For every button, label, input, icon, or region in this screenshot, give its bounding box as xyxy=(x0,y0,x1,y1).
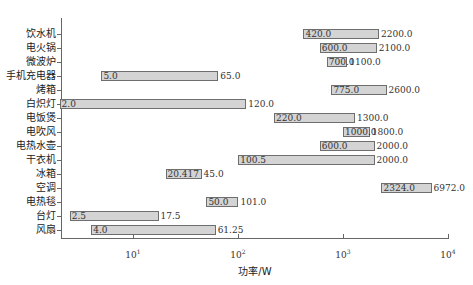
bar-min-label: 420.0 xyxy=(305,29,331,39)
bar-min-label: 600.0 xyxy=(322,43,348,53)
x-axis-line xyxy=(61,238,449,239)
bar-max-label: 17.5 xyxy=(161,211,181,221)
bar-min-label: 220.0 xyxy=(276,113,302,123)
x-tick-mark xyxy=(238,234,239,238)
x-tick-mark xyxy=(448,234,449,238)
y-axis-labels: 饮水机电火锅微波炉手机充电器烤箱白炽灯电饭煲电吹风电热水壶干衣机冰箱空调电热毯台… xyxy=(0,0,56,285)
bar-max-label: 61.25 xyxy=(218,225,244,235)
y-tick-label: 电热水壶 xyxy=(16,140,56,152)
bar-max-label: 1100.0 xyxy=(349,57,381,67)
bar-min-label: 775.0 xyxy=(333,85,359,95)
bar-max-label: 2200.0 xyxy=(381,29,413,39)
y-tick-mark xyxy=(57,160,61,161)
y-axis-line xyxy=(61,18,62,238)
y-tick-mark xyxy=(57,188,61,189)
y-tick-label: 手机充电器 xyxy=(6,70,56,82)
y-tick-mark xyxy=(57,104,61,105)
x-tick-label: 103 xyxy=(335,247,350,260)
y-tick-label: 风扇 xyxy=(36,224,56,236)
x-tick-mark xyxy=(133,234,134,238)
power-range-chart: 饮水机电火锅微波炉手机充电器烤箱白炽灯电饭煲电吹风电热水壶干衣机冰箱空调电热毯台… xyxy=(0,0,473,285)
y-tick-label: 微波炉 xyxy=(26,56,56,68)
y-tick-mark xyxy=(57,216,61,217)
bar-max-label: 2000.0 xyxy=(377,155,409,165)
y-tick-mark xyxy=(57,34,61,35)
y-tick-mark xyxy=(57,90,61,91)
y-tick-label: 干衣机 xyxy=(26,154,56,166)
bar-min-label: 2.5 xyxy=(72,211,86,221)
y-tick-label: 冰箱 xyxy=(36,168,56,180)
x-tick-mark xyxy=(343,234,344,238)
y-tick-label: 电火锅 xyxy=(26,42,56,54)
y-tick-mark xyxy=(57,230,61,231)
y-tick-mark xyxy=(57,132,61,133)
y-tick-label: 电吹风 xyxy=(26,126,56,138)
bar-max-label: 1800.0 xyxy=(372,127,404,137)
bar-max-label: 2000.0 xyxy=(377,141,409,151)
bar-min-label: 20.417 xyxy=(168,169,200,179)
bar-max-label: 2100.0 xyxy=(379,43,411,53)
y-tick-mark xyxy=(57,118,61,119)
range-bar xyxy=(60,99,247,109)
bar-max-label: 65.0 xyxy=(220,71,240,81)
y-tick-mark xyxy=(57,76,61,77)
bar-max-label: 45.0 xyxy=(204,169,224,179)
x-tick-label: 102 xyxy=(230,247,245,260)
bar-min-label: 100.5 xyxy=(240,155,266,165)
bar-max-label: 1300.0 xyxy=(357,113,389,123)
y-tick-label: 电饭煲 xyxy=(26,112,56,124)
y-tick-mark xyxy=(57,62,61,63)
bar-min-label: 5.0 xyxy=(103,71,117,81)
y-tick-label: 台灯 xyxy=(36,210,56,222)
y-tick-mark xyxy=(57,174,61,175)
bar-min-label: 2.0 xyxy=(62,99,76,109)
bar-max-label: 120.0 xyxy=(248,99,274,109)
bar-max-label: 6972.0 xyxy=(434,183,466,193)
y-tick-mark xyxy=(57,146,61,147)
range-bar xyxy=(91,225,215,235)
bar-max-label: 101.0 xyxy=(240,197,266,207)
y-tick-mark xyxy=(57,202,61,203)
y-tick-mark xyxy=(57,48,61,49)
bar-min-label: 50.0 xyxy=(208,197,228,207)
y-tick-label: 电热毯 xyxy=(26,196,56,208)
bar-min-label: 4.0 xyxy=(93,225,107,235)
y-tick-label: 烤箱 xyxy=(36,84,56,96)
x-axis-title: 功率/W xyxy=(238,263,271,278)
x-tick-label: 104 xyxy=(440,247,455,260)
bar-max-label: 2600.0 xyxy=(389,85,421,95)
x-tick-label: 101 xyxy=(125,247,140,260)
y-tick-label: 白炽灯 xyxy=(26,98,56,110)
y-tick-label: 空调 xyxy=(36,182,56,194)
range-bar xyxy=(101,71,218,81)
bar-min-label: 2324.0 xyxy=(383,183,415,193)
y-tick-label: 饮水机 xyxy=(26,28,56,40)
bar-min-label: 600.0 xyxy=(322,141,348,151)
